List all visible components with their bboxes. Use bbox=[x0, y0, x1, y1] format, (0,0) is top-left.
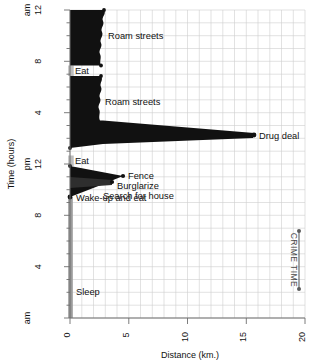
y-tick-label-12am: 12 bbox=[33, 5, 43, 15]
annotation-wake-up-eat: Wake-up and eat bbox=[76, 193, 147, 203]
y-tick-sub-pm: pm bbox=[22, 158, 32, 171]
y-tick-sub-am-bottom: am bbox=[22, 312, 32, 325]
x-tick-label-0: 0 bbox=[62, 332, 72, 337]
y-tick-sub-am-top: am bbox=[22, 4, 32, 17]
annotation-roam-streets-1: Roam streets bbox=[108, 31, 164, 41]
x-axis-ticks bbox=[70, 318, 305, 324]
chart-container: Roam streets Eat Roam streets Drug deal … bbox=[0, 0, 311, 364]
y-tick-label-4pm: 4 bbox=[33, 110, 43, 115]
annotation-eat-midday: Eat bbox=[75, 156, 89, 166]
y-tick-label-12pm: 12 bbox=[33, 159, 43, 169]
annotation-sleep: Sleep bbox=[76, 287, 100, 297]
y-tick-label-8pm: 8 bbox=[33, 59, 43, 64]
x-tick-label-15: 15 bbox=[238, 332, 248, 342]
y-tick-label-8am: 8 bbox=[33, 213, 43, 218]
annotation-drug-deal: Drug deal bbox=[259, 131, 299, 141]
y-axis-title: Time (hours) bbox=[6, 139, 16, 190]
crime-trip-chart: Roam streets Eat Roam streets Drug deal … bbox=[0, 0, 311, 364]
annotation-roam-streets-2: Roam streets bbox=[105, 97, 161, 107]
x-tick-label-20: 20 bbox=[297, 332, 307, 342]
annotation-eat-evening: Eat bbox=[75, 66, 89, 76]
trajectory-area bbox=[70, 10, 105, 66]
annotation-burglarize: Burglarize bbox=[117, 181, 159, 191]
crime-time-label: CRIME TIME bbox=[289, 233, 299, 287]
crime-time-annotation: CRIME TIME bbox=[289, 229, 301, 291]
x-tick-label-5: 5 bbox=[121, 332, 131, 337]
annotation-fence: Fence bbox=[128, 171, 154, 181]
x-tick-label-10: 10 bbox=[180, 332, 190, 342]
y-tick-label-4am: 4 bbox=[33, 264, 43, 269]
x-axis-title: Distance (km.) bbox=[161, 350, 219, 360]
grid-lines bbox=[70, 10, 305, 318]
